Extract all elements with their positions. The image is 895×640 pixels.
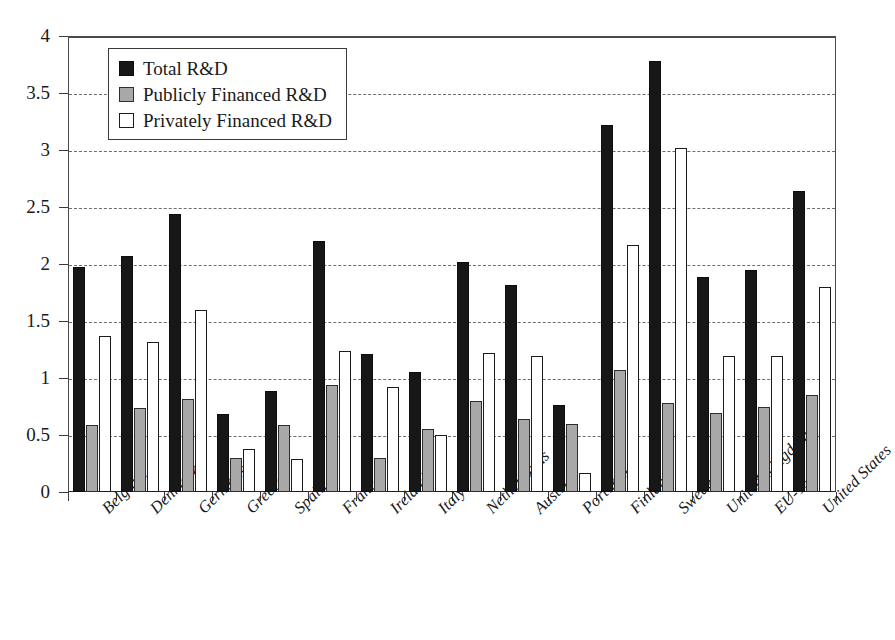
bar-total xyxy=(505,285,517,492)
bar-public xyxy=(518,419,530,492)
bar-public xyxy=(758,407,770,493)
bar-group xyxy=(404,36,452,492)
y-axis-tick-label: 3.5 xyxy=(26,82,50,104)
legend-label: Publicly Financed R&D xyxy=(143,85,327,104)
chart-legend: Total R&DPublicly Financed R&DPrivately … xyxy=(108,48,347,140)
y-axis-tick-mark xyxy=(59,150,68,151)
y-axis: 00.511.522.533.54 xyxy=(0,36,58,492)
bar-total xyxy=(169,214,181,492)
bar-total xyxy=(361,354,373,492)
bar-private xyxy=(675,148,687,492)
bar-total xyxy=(457,262,469,492)
bar-private xyxy=(723,356,735,492)
bar-total xyxy=(73,267,85,492)
bar-private xyxy=(531,356,543,492)
y-axis-tick-label: 3 xyxy=(41,139,51,161)
bar-public xyxy=(278,425,290,492)
y-axis-tick-label: 1.5 xyxy=(26,310,50,332)
bar-public xyxy=(230,458,242,492)
bar-public xyxy=(422,429,434,492)
legend-swatch-private xyxy=(119,113,134,128)
legend-item: Total R&D xyxy=(119,55,332,81)
bar-group xyxy=(548,36,596,492)
bar-total xyxy=(601,125,613,492)
y-axis-tick-mark xyxy=(59,207,68,208)
bar-private xyxy=(627,245,639,492)
legend-swatch-public xyxy=(119,87,134,102)
y-axis-tick-mark xyxy=(59,435,68,436)
legend-label: Total R&D xyxy=(143,59,228,78)
bar-private xyxy=(771,356,783,492)
y-axis-tick-label: 4 xyxy=(41,25,51,47)
bar-private xyxy=(291,459,303,492)
bar-public xyxy=(182,399,194,492)
y-axis-tick-label: 2 xyxy=(41,253,51,275)
bar-private xyxy=(195,310,207,492)
bar-public xyxy=(470,401,482,492)
bar-public xyxy=(806,395,818,492)
bar-private xyxy=(243,449,255,492)
legend-item: Privately Financed R&D xyxy=(119,107,332,133)
bar-private xyxy=(435,435,447,492)
bar-private xyxy=(579,473,591,492)
bar-total xyxy=(649,61,661,492)
bar-public xyxy=(134,408,146,492)
bar-private xyxy=(99,336,111,492)
legend-swatch-total xyxy=(119,61,134,76)
y-axis-tick-label: 2.5 xyxy=(26,196,50,218)
y-axis-tick-mark xyxy=(59,492,68,493)
bar-public xyxy=(566,424,578,492)
bar-total xyxy=(313,241,325,492)
bar-group xyxy=(596,36,644,492)
y-axis-tick-mark xyxy=(59,264,68,265)
bar-group xyxy=(356,36,404,492)
y-axis-tick-label: 1 xyxy=(41,367,51,389)
y-axis-tick-mark xyxy=(59,378,68,379)
bar-total xyxy=(793,191,805,492)
y-axis-tick-mark xyxy=(59,36,68,37)
bar-group xyxy=(788,36,836,492)
bar-public xyxy=(614,370,626,492)
bar-private xyxy=(819,287,831,492)
bar-private xyxy=(339,351,351,492)
y-axis-tick-mark xyxy=(59,321,68,322)
bar-group xyxy=(644,36,692,492)
bar-private xyxy=(483,353,495,492)
y-axis-tick-label: 0.5 xyxy=(26,424,50,446)
bar-group xyxy=(452,36,500,492)
bar-total xyxy=(265,391,277,492)
x-axis-labels: BelgiumDenmarkGermanyGreeceSpainFranceIr… xyxy=(68,500,836,640)
bar-total xyxy=(553,405,565,492)
bar-public xyxy=(662,403,674,492)
bar-public xyxy=(86,425,98,492)
bar-group xyxy=(692,36,740,492)
y-axis-tick-label: 0 xyxy=(41,481,51,503)
bar-total xyxy=(121,256,133,492)
legend-item: Publicly Financed R&D xyxy=(119,81,332,107)
bar-public xyxy=(374,458,386,492)
bar-total xyxy=(697,277,709,492)
bar-total xyxy=(745,270,757,492)
bar-group xyxy=(500,36,548,492)
y-axis-tick-mark xyxy=(59,93,68,94)
bar-public xyxy=(326,385,338,492)
bar-private xyxy=(387,387,399,492)
bar-public xyxy=(710,413,722,492)
bar-group xyxy=(740,36,788,492)
bar-total xyxy=(217,414,229,492)
bar-private xyxy=(147,342,159,492)
bar-total xyxy=(409,372,421,492)
legend-label: Privately Financed R&D xyxy=(143,111,332,130)
